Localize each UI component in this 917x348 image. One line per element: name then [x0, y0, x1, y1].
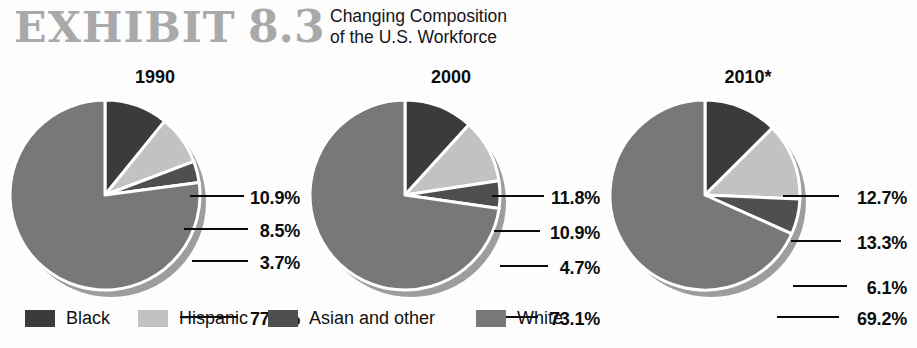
figure-header: EXHIBIT 8.3 Changing Composition of the … — [0, 0, 917, 62]
pie-value-label-asian-and-other: 3.7% — [190, 253, 300, 274]
exhibit-figure: EXHIBIT 8.3 Changing Composition of the … — [0, 0, 917, 348]
pie-value-label-hispanic: 8.5% — [190, 221, 300, 242]
legend-item-white[interactable]: White — [476, 305, 563, 331]
pie-value-label-black: 10.9% — [190, 188, 300, 209]
chart-legend: BlackHispanicAsian and otherWhite — [0, 305, 917, 337]
figure-subtitle-line-1: Changing Composition — [330, 6, 660, 27]
pie-value-label-asian-and-other: 4.7% — [490, 258, 600, 279]
legend-item-asian-and-other[interactable]: Asian and other — [268, 305, 435, 331]
legend-swatch-icon — [476, 310, 506, 327]
pie-value-label-hispanic: 10.9% — [490, 223, 600, 244]
pie-year-label-1990: 1990 — [100, 67, 210, 88]
legend-item-hispanic[interactable]: Hispanic — [138, 305, 248, 331]
pie-value-label-black: 12.7% — [797, 188, 907, 209]
legend-label: Asian and other — [309, 308, 435, 328]
legend-label: Hispanic — [179, 308, 248, 328]
legend-label: White — [517, 308, 563, 328]
legend-item-black[interactable]: Black — [25, 305, 110, 331]
pie-value-label-hispanic: 13.3% — [797, 233, 907, 254]
pie-year-label-2000: 2000 — [396, 67, 506, 88]
exhibit-number: 8.3 — [248, 2, 325, 52]
legend-label: Black — [66, 308, 110, 328]
pie-value-label-asian-and-other: 6.1% — [797, 278, 907, 299]
legend-swatch-icon — [138, 310, 168, 327]
exhibit-label: EXHIBIT — [14, 4, 236, 52]
pie-year-label-2010: 2010* — [693, 67, 803, 88]
pie-panel-2010: 2010*12.7%13.3%6.1%69.2% — [607, 62, 917, 297]
legend-swatch-icon — [25, 310, 55, 327]
pie-panel-1990: 199010.9%8.5%3.7%77.7% — [0, 62, 310, 297]
legend-swatch-icon — [268, 310, 298, 327]
figure-subtitle: Changing Composition of the U.S. Workfor… — [330, 6, 660, 48]
figure-subtitle-line-2: of the U.S. Workforce — [330, 27, 660, 48]
pie-panel-2000: 200011.8%10.9%4.7%73.1% — [300, 62, 610, 297]
pie-value-label-black: 11.8% — [490, 188, 600, 209]
